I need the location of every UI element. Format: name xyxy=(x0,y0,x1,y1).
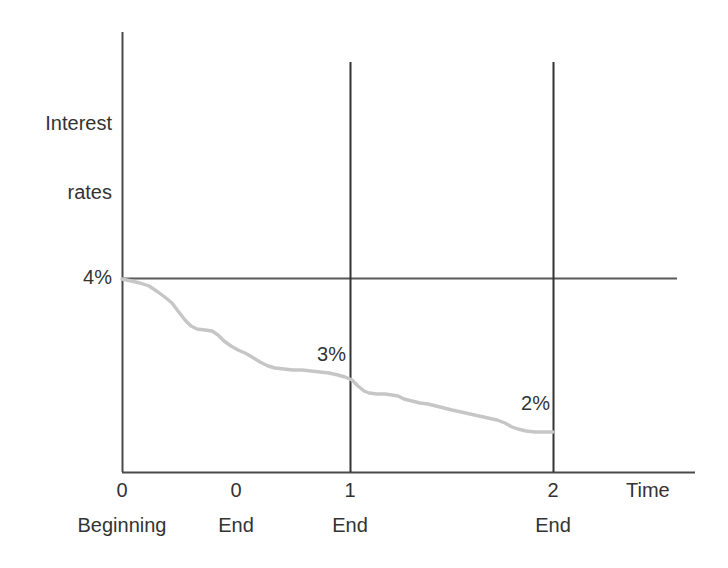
y-axis-title: Interest rates xyxy=(0,66,112,250)
x-axis-title: Time xyxy=(626,479,670,502)
x-tick-label-2: 2 xyxy=(513,479,593,502)
interest-rate-chart: Interest rates 4% 3% 2% 0 0 1 2 Beginnin… xyxy=(0,0,728,568)
y-axis-title-line-2: rates xyxy=(0,181,112,204)
y-tick-label-4pct: 4% xyxy=(62,266,112,289)
x-sublabel-end-2: End xyxy=(483,514,623,537)
x-sublabel-end-1: End xyxy=(280,514,420,537)
x-tick-label-1: 1 xyxy=(310,479,390,502)
annotation-3pct: 3% xyxy=(296,343,346,366)
annotation-2pct: 2% xyxy=(500,392,550,415)
x-tick-label-0-end: 0 xyxy=(196,479,276,502)
x-tick-label-0-beginning: 0 xyxy=(82,479,162,502)
y-axis-title-line-1: Interest xyxy=(0,112,112,135)
